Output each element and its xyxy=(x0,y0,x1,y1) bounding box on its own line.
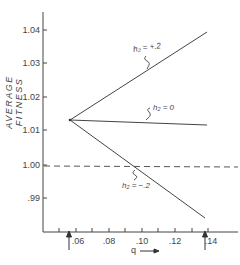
reference-line-1-00 xyxy=(44,166,238,167)
x-axis-title: q xyxy=(131,245,136,255)
y-tick-label: 1.01 xyxy=(4,125,40,135)
x-tick-label: .14 xyxy=(199,236,223,246)
annotation-h2-zero: h₂ = 0 xyxy=(153,103,174,112)
y-tick-label: 1.03 xyxy=(4,58,40,68)
y-tick-label: 1.02 xyxy=(4,92,40,102)
series-line-h2-neg xyxy=(70,120,205,218)
pointer-squiggle-zero xyxy=(146,108,150,120)
pointer-squiggle-pos xyxy=(145,56,150,69)
y-ticks xyxy=(43,30,47,198)
series-line-h2-zero xyxy=(70,120,207,125)
x-tick-label: .08 xyxy=(97,236,121,246)
x-ticks xyxy=(59,228,208,232)
y-tick-label: 1.04 xyxy=(4,25,40,35)
annotation-h2-neg: h₂ = −.2 xyxy=(122,181,150,190)
origin-point xyxy=(69,119,72,122)
x-tick-label: .12 xyxy=(163,236,187,246)
y-tick-label: .99 xyxy=(4,193,40,203)
arrow-right-icon xyxy=(140,249,159,253)
y-tick-label: 1.00 xyxy=(4,160,40,170)
pointer-squiggle-neg xyxy=(133,170,137,180)
x-tick-label: .06 xyxy=(66,236,90,246)
